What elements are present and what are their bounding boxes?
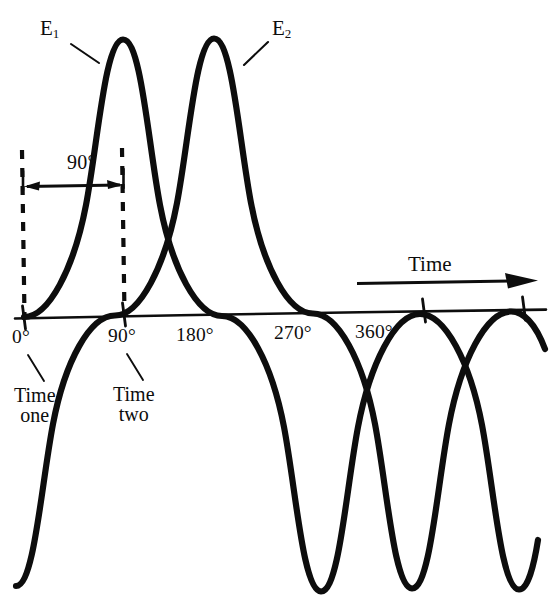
marker-label-time-one-line2: one: [14, 405, 56, 425]
series-label-e2-base: E: [272, 16, 285, 40]
marker-label-time-two-line1: Time: [113, 384, 155, 404]
series-label-e1-base: E: [40, 16, 53, 40]
time-axis: [15, 310, 546, 319]
series-label-e2-subscript: 2: [285, 26, 292, 41]
series-label-e2: E2: [272, 18, 291, 40]
leader-line-e1: [71, 44, 99, 63]
marker-label-time-two: Time two: [113, 384, 155, 425]
tick-label-360: 360°: [355, 322, 393, 342]
waveform-plot: [0, 0, 550, 604]
marker-label-time-two-line2: two: [113, 404, 155, 424]
series-label-e1: E1: [40, 18, 59, 40]
time-axis-label: Time: [408, 254, 452, 275]
tick-label-270: 270°: [274, 323, 312, 343]
series-label-e1-subscript: 1: [53, 26, 60, 41]
tick-label-90: 90°: [108, 326, 136, 346]
phase-gap-label: 90°: [67, 152, 96, 172]
dashed-reference-lines: [22, 148, 125, 316]
tick-label-180: 180°: [176, 325, 214, 345]
leader-line-e2: [244, 42, 268, 65]
leader-line-time-one: [28, 355, 44, 381]
waveform-figure: E1 E2 90° Time 0° 90° 180° 270° 360° Tim…: [0, 0, 550, 604]
tick-label-0: 0°: [12, 327, 30, 347]
leader-line-time-two: [127, 354, 143, 380]
marker-label-time-one-line1: Time: [14, 385, 56, 405]
marker-label-time-one: Time one: [14, 385, 56, 426]
